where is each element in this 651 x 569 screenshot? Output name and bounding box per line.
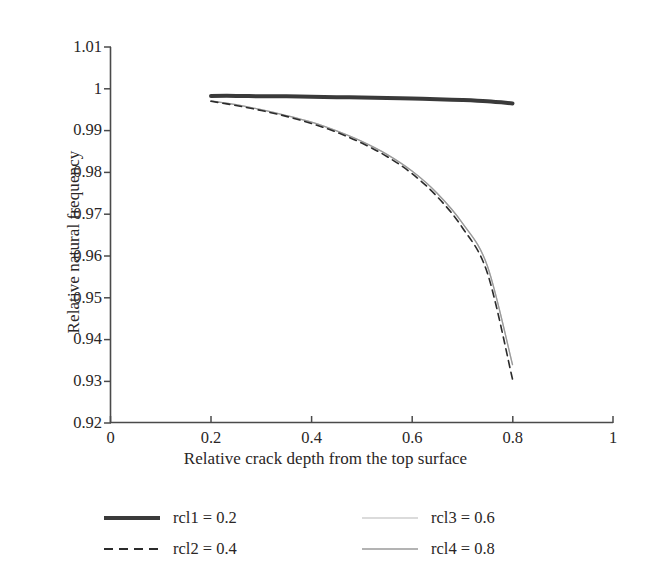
- x-tick-label: 0.2: [181, 428, 241, 448]
- x-tick-label: 0.6: [382, 428, 442, 448]
- chart-legend: rcl1 = 0.2 rcl2 = 0.4 rcl3 = 0.6: [104, 505, 584, 567]
- x-tick-label: 0.4: [282, 428, 342, 448]
- legend-item-rcl2: rcl2 = 0.4: [104, 536, 237, 562]
- x-tick-labels: 0 0.2 0.4 0.6 0.8 1: [0, 0, 651, 569]
- x-tick-label: 0: [81, 428, 141, 448]
- legend-label: rcl1 = 0.2: [173, 508, 237, 528]
- legend-label: rcl3 = 0.6: [431, 508, 495, 528]
- x-axis-title: Relative crack depth from the top surfac…: [0, 449, 651, 469]
- legend-swatch-solid-thin: [362, 542, 418, 556]
- legend-label: rcl2 = 0.4: [173, 539, 237, 559]
- chart-figure: Relative natural frequency 1.01 1 0.99 0…: [0, 0, 651, 569]
- legend-swatch-solid-thick: [104, 511, 160, 525]
- legend-item-rcl4: rcl4 = 0.8: [362, 536, 495, 562]
- legend-item-rcl3: rcl3 = 0.6: [362, 505, 495, 531]
- x-tick-label: 0.8: [483, 428, 543, 448]
- legend-swatch-solid-thin-light: [362, 511, 418, 525]
- legend-swatch-dashed: [104, 542, 160, 556]
- legend-item-rcl1: rcl1 = 0.2: [104, 505, 237, 531]
- legend-label: rcl4 = 0.8: [431, 539, 495, 559]
- x-tick-label: 1: [583, 428, 643, 448]
